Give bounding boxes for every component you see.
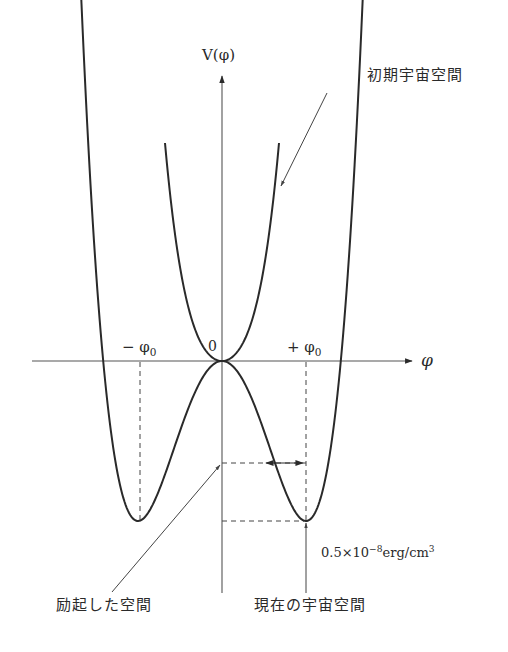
pos-phi0-label: + φ0 — [287, 340, 322, 358]
excited-space-pointer — [112, 465, 220, 592]
early-universe-label: 初期宇宙空間 — [367, 68, 463, 83]
energy-density-label: 0.5×10−8erg/cm3 — [321, 545, 435, 559]
y-axis-label: V(φ) — [202, 48, 235, 63]
current-universe-label: 現在の宇宙空間 — [254, 598, 366, 613]
excited-space-label: 励起した空間 — [56, 598, 152, 613]
neg-phi0-label: − φ0 — [122, 340, 157, 358]
x-axis-label: φ — [421, 352, 433, 369]
origin-label: 0 — [208, 339, 217, 353]
early-universe-pointer — [281, 93, 327, 186]
neg-phi0-subscript: 0 — [150, 346, 157, 358]
pos-phi0-subscript: 0 — [315, 346, 322, 358]
